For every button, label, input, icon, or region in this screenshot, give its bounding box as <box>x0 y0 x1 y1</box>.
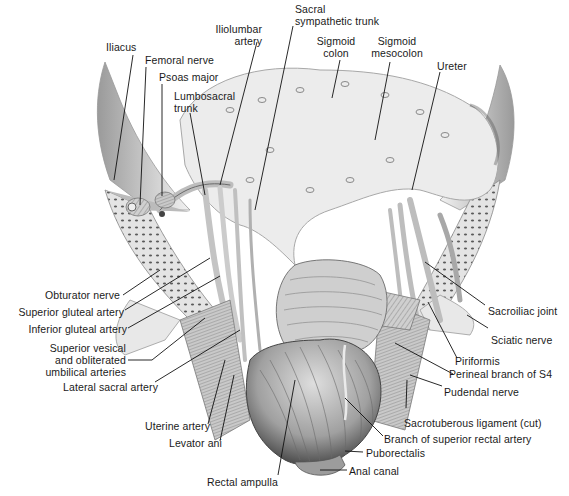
label-sciatic-nerve: Sciatic nerve <box>491 334 552 346</box>
label-superior-vesical-line3: umbilical arteries <box>0 366 126 378</box>
label-sacroiliac-joint: Sacroiliac joint <box>488 305 557 317</box>
label-piriformis: Piriformis <box>455 355 500 367</box>
label-sacrotuberous-ligament: Sacrotuberous ligament (cut) <box>404 417 542 429</box>
label-perineal-branch-s4: Perineal branch of S4 <box>449 368 552 380</box>
anatomy-figure: Iliacus Femoral nerve Psoas major Lumbos… <box>0 0 569 496</box>
label-lumbosacral-trunk-line1: Lumbosacral <box>174 90 235 102</box>
label-sacral-sympathetic-trunk-line1: Sacral <box>295 3 379 15</box>
label-anal-canal: Anal canal <box>349 465 399 477</box>
label-iliolumbar-artery-line2: artery <box>208 35 262 47</box>
label-pudendal-nerve: Pudendal nerve <box>444 386 519 398</box>
label-psoas-major: Psoas major <box>159 71 218 83</box>
label-sigmoid-mesocolon-line2: mesocolon <box>366 47 428 59</box>
label-iliolumbar-artery: Iliolumbar artery <box>208 23 262 47</box>
label-levator-ani: Levator ani <box>0 437 222 449</box>
label-sigmoid-colon-line2: colon <box>310 47 362 59</box>
label-rectal-ampulla: Rectal ampulla <box>207 476 278 488</box>
label-uterine-artery: Uterine artery <box>0 420 210 432</box>
label-sigmoid-colon-line1: Sigmoid <box>310 35 362 47</box>
label-lateral-sacral-artery: Lateral sacral artery <box>0 381 158 393</box>
label-obturator-nerve: Obturator nerve <box>0 289 120 301</box>
label-iliacus: Iliacus <box>106 41 136 53</box>
label-sacral-sympathetic-trunk: Sacral sympathetic trunk <box>295 3 379 27</box>
label-superior-vesical-arteries: Superior vesical and obliterated umbilic… <box>0 342 126 378</box>
label-puborectalis: Puborectalis <box>366 447 425 459</box>
label-ureter: Ureter <box>437 60 467 72</box>
label-sigmoid-mesocolon: Sigmoid mesocolon <box>366 35 428 59</box>
label-lumbosacral-trunk-line2: trunk <box>174 102 235 114</box>
label-lumbosacral-trunk: Lumbosacral trunk <box>174 90 235 114</box>
label-femoral-nerve: Femoral nerve <box>145 54 214 66</box>
label-superior-vesical-line2: and obliterated <box>0 354 126 366</box>
label-superior-gluteal-artery: Superior gluteal artery <box>0 306 124 318</box>
label-inferior-gluteal-artery: Inferior gluteal artery <box>0 323 127 335</box>
label-superior-vesical-line1: Superior vesical <box>0 342 126 354</box>
label-iliolumbar-artery-line1: Iliolumbar <box>208 23 262 35</box>
label-sacral-sympathetic-trunk-line2: sympathetic trunk <box>295 15 379 27</box>
label-branch-superior-rectal-artery: Branch of superior rectal artery <box>384 433 531 445</box>
label-sigmoid-mesocolon-line1: Sigmoid <box>366 35 428 47</box>
label-sigmoid-colon: Sigmoid colon <box>310 35 362 59</box>
